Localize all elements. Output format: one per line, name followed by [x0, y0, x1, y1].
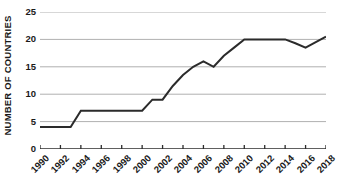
y-tick-label: 15: [25, 62, 36, 72]
data-series: [40, 37, 326, 127]
y-axis-tick-labels: 0510152025: [16, 0, 38, 155]
x-tick-label: 1998: [111, 153, 133, 175]
x-tick-label: 2016: [295, 153, 317, 175]
x-tick-label: 2004: [172, 153, 194, 175]
gridlines: [40, 12, 326, 122]
x-tick-label: 2010: [233, 153, 255, 175]
y-tick-label: 0: [31, 144, 36, 154]
x-tick-label: 2002: [152, 153, 174, 175]
series-line: [40, 37, 326, 127]
y-tick-label: 5: [31, 117, 36, 127]
y-tick-label: 25: [25, 7, 36, 17]
y-tick-label: 20: [25, 35, 36, 45]
x-tick-label: 1992: [49, 153, 71, 175]
x-tick-label: 2006: [192, 153, 214, 175]
x-tick-label: 1990: [29, 153, 51, 175]
x-tick-label: 2014: [274, 153, 296, 175]
x-tick-label: 1994: [70, 153, 92, 175]
x-tick-label: 2000: [131, 153, 153, 175]
plot-svg: [40, 12, 326, 149]
x-tick-label: 2012: [254, 153, 276, 175]
y-axis-title-label: NUMBER OF COUNTRIES: [3, 15, 14, 135]
y-axis-title: NUMBER OF COUNTRIES: [0, 0, 16, 150]
y-tick-label: 10: [25, 89, 36, 99]
x-tick-label: 1996: [90, 153, 112, 175]
plot-area: [40, 12, 326, 149]
x-axis-tick-labels: 1990199219941996199820002002200420062008…: [40, 150, 326, 195]
x-tick-label: 2008: [213, 153, 235, 175]
x-tick-label: 2018: [315, 153, 337, 175]
